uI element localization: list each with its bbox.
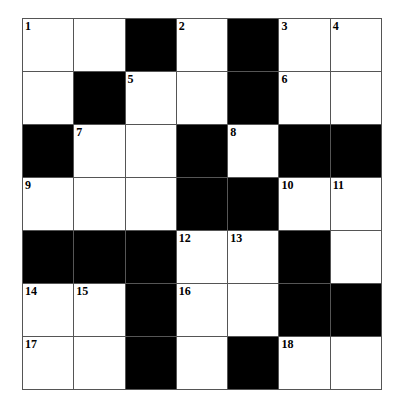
crossword-cell[interactable] [126, 178, 176, 230]
crossword-cell[interactable] [177, 72, 227, 124]
crossword-cell[interactable]: 5 [126, 72, 176, 124]
crossword-cell[interactable]: 16 [177, 284, 227, 336]
black-square [23, 125, 73, 177]
black-square [228, 19, 278, 71]
clue-number: 8 [230, 126, 236, 138]
crossword-grid: 123456789101112131415161718 [22, 18, 382, 390]
black-square [228, 72, 278, 124]
black-square [177, 125, 227, 177]
black-square [331, 284, 381, 336]
clue-number: 7 [76, 126, 82, 138]
crossword-cell[interactable] [331, 72, 381, 124]
black-square [177, 178, 227, 230]
crossword-cell[interactable]: 11 [331, 178, 381, 230]
clue-number: 10 [281, 179, 293, 191]
crossword-cell[interactable]: 10 [279, 178, 329, 230]
crossword-cell[interactable]: 17 [23, 337, 73, 389]
clue-number: 9 [25, 179, 31, 191]
clue-number: 18 [281, 338, 293, 350]
clue-number: 5 [128, 73, 134, 85]
black-square [279, 125, 329, 177]
black-square [126, 284, 176, 336]
crossword-cell[interactable] [74, 337, 124, 389]
black-square [23, 231, 73, 283]
black-square [331, 125, 381, 177]
clue-number: 11 [333, 179, 344, 191]
clue-number: 12 [179, 232, 191, 244]
crossword-cell[interactable]: 9 [23, 178, 73, 230]
crossword-cell[interactable]: 7 [74, 125, 124, 177]
crossword-cell[interactable]: 2 [177, 19, 227, 71]
clue-number: 17 [25, 338, 37, 350]
crossword-cell[interactable]: 4 [331, 19, 381, 71]
crossword-cell[interactable]: 18 [279, 337, 329, 389]
black-square [126, 337, 176, 389]
black-square [126, 19, 176, 71]
clue-number: 4 [333, 20, 339, 32]
crossword-cell[interactable]: 3 [279, 19, 329, 71]
crossword-cell[interactable] [23, 72, 73, 124]
black-square [74, 72, 124, 124]
clue-number: 13 [230, 232, 242, 244]
black-square [74, 231, 124, 283]
crossword-cell[interactable] [126, 125, 176, 177]
black-square [126, 231, 176, 283]
black-square [279, 231, 329, 283]
crossword-cell[interactable]: 13 [228, 231, 278, 283]
crossword-cell[interactable] [331, 337, 381, 389]
black-square [228, 337, 278, 389]
clue-number: 2 [179, 20, 185, 32]
clue-number: 14 [25, 285, 37, 297]
black-square [279, 284, 329, 336]
crossword-cell[interactable]: 6 [279, 72, 329, 124]
clue-number: 6 [281, 73, 287, 85]
crossword-cell[interactable]: 15 [74, 284, 124, 336]
clue-number: 15 [76, 285, 88, 297]
crossword-cell[interactable] [331, 231, 381, 283]
crossword-cell[interactable] [177, 337, 227, 389]
crossword-cell[interactable]: 1 [23, 19, 73, 71]
clue-number: 16 [179, 285, 191, 297]
black-square [228, 178, 278, 230]
clue-number: 3 [281, 20, 287, 32]
crossword-cell[interactable] [74, 178, 124, 230]
clue-number: 1 [25, 20, 31, 32]
crossword-cell[interactable]: 14 [23, 284, 73, 336]
crossword-cell[interactable]: 12 [177, 231, 227, 283]
crossword-cell[interactable] [74, 19, 124, 71]
crossword-cell[interactable]: 8 [228, 125, 278, 177]
crossword-cell[interactable] [228, 284, 278, 336]
